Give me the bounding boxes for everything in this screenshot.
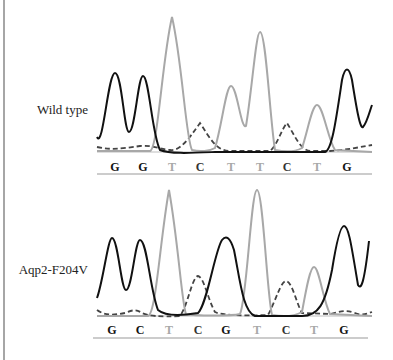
trace-c [97,123,372,151]
base-call: G [107,323,116,337]
base-call: G [339,323,348,337]
base-call: T [310,323,318,337]
base-call: C [282,323,291,337]
base-call: T [256,160,264,174]
base-call: T [313,160,321,174]
trace-t [97,17,372,152]
chromatogram-wild-type: G G T C T T C T G [97,17,372,174]
base-call: C [196,160,205,174]
base-call: C [283,160,292,174]
chromatogram-figure: G G T C T T C T G G C T C G T C T G [0,0,393,360]
base-call: G [342,160,351,174]
base-call: G [110,160,119,174]
trace-c [97,276,372,316]
trace-g [97,70,372,153]
base-call: C [136,323,145,337]
base-calls-wild-type: G G T C T T C T G [110,160,351,174]
base-call: G [221,323,230,337]
base-call: T [227,160,235,174]
base-call: C [194,323,203,337]
base-call: T [165,323,173,337]
base-call: G [138,160,147,174]
trace-g [97,226,369,316]
base-calls-mutant: G C T C G T C T G [107,323,348,337]
base-call: T [253,323,261,337]
chromatogram-mutant: G C T C G T C T G [93,190,372,338]
base-call: T [168,160,176,174]
